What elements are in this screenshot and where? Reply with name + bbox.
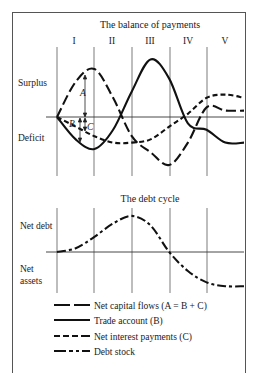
phase-label-4: IV <box>183 36 193 46</box>
balance-chart: The balance of payments I II III IV V Su… <box>18 19 244 176</box>
net-assets-label-2: assets <box>20 276 42 286</box>
legend-label: Net interest payments (C) <box>94 332 192 343</box>
label-a: A <box>79 88 86 98</box>
phase-label-1: I <box>72 36 75 46</box>
debt-chart: The debt cycle Net debt Net assets <box>20 193 244 293</box>
arrow-b-head-top <box>78 118 81 122</box>
debt-series <box>57 216 244 287</box>
net-assets-label-1: Net <box>20 264 34 274</box>
label-b: B <box>69 119 75 129</box>
balance-chart-title: The balance of payments <box>100 19 200 30</box>
phase-label-3: III <box>145 36 155 46</box>
phase-label-2: II <box>109 36 115 46</box>
balance-grid <box>57 47 207 176</box>
legend: Net capital flows (A = B + C)Trade accou… <box>54 301 207 357</box>
phase-label-5: V <box>222 36 229 46</box>
debt-stock-line <box>57 216 244 287</box>
label-c: C <box>87 122 94 132</box>
deficit-label: Deficit <box>18 133 45 143</box>
surplus-label: Surplus <box>18 78 47 88</box>
legend-label: Debt stock <box>94 347 135 357</box>
arrow-a-head-bottom <box>83 113 86 117</box>
legend-label: Net capital flows (A = B + C) <box>94 301 207 312</box>
net-debt-label: Net debt <box>20 221 53 231</box>
debt-grid <box>57 208 207 293</box>
debt-chart-title: The debt cycle <box>121 193 180 204</box>
legend-label: Trade account (B) <box>94 316 163 327</box>
arrow-a-head-top <box>83 75 86 79</box>
